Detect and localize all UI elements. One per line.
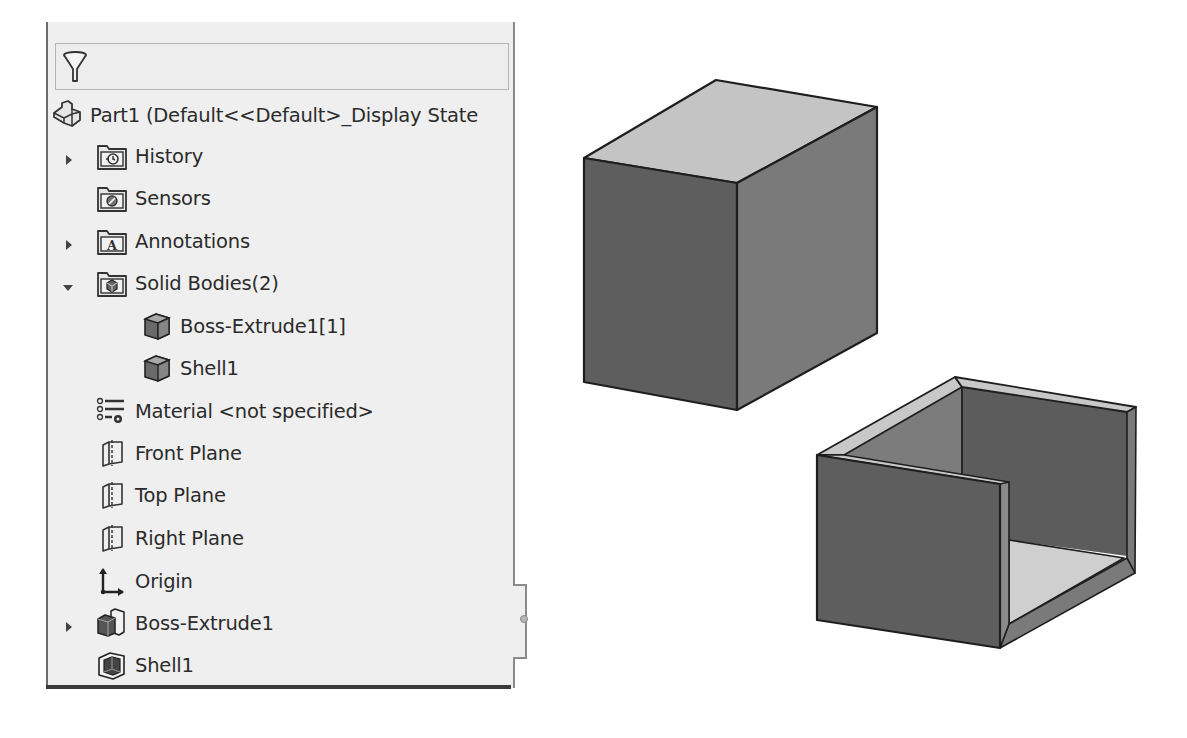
graphics-viewport[interactable]: [540, 0, 1187, 738]
tree-item-label: Boss-Extrude1[1]: [180, 315, 346, 338]
expand-arrow-history[interactable]: [64, 150, 74, 160]
part-icon: [50, 99, 84, 131]
panel-bottom-border: [46, 685, 511, 689]
tree-item-front-plane[interactable]: Front Plane: [95, 433, 242, 473]
tree-item-material[interactable]: Material <not specified>: [95, 391, 374, 431]
splitter-grip-icon[interactable]: [520, 615, 528, 623]
tree-item-boss-extrude1[interactable]: Boss-Extrude1: [95, 603, 274, 643]
filter-funnel-icon[interactable]: [62, 50, 88, 84]
tree-item-top-plane[interactable]: Top Plane: [95, 475, 226, 515]
tree-item-label: Right Plane: [135, 527, 244, 550]
expand-arrow-boss-extrude1[interactable]: [64, 617, 74, 627]
plane-icon: [95, 479, 129, 511]
tree-root-label: Part1 (Default<<Default>_Display State: [90, 104, 478, 127]
annotations-folder-icon: A: [95, 225, 129, 257]
tree-item-label: Origin: [135, 570, 193, 593]
tree-item-annotations[interactable]: A Annotations: [95, 221, 250, 261]
plane-icon: [95, 437, 129, 469]
extrude-feature-icon: [95, 607, 129, 639]
shell-feature-icon: [95, 649, 129, 681]
tree-item-label: History: [135, 145, 203, 168]
tree-item-label: Shell1: [135, 654, 194, 677]
chevron-right-icon[interactable]: [64, 155, 74, 165]
history-folder-icon: [95, 140, 129, 172]
tree-item-sensors[interactable]: Sensors: [95, 178, 211, 218]
tree-item-label: Front Plane: [135, 442, 242, 465]
svg-text:A: A: [106, 238, 118, 253]
tree-item-body-boss-extrude1[interactable]: Boss-Extrude1[1]: [140, 306, 346, 346]
tree-item-solid-bodies[interactable]: Solid Bodies(2): [95, 263, 279, 303]
collapse-arrow-solid-bodies[interactable]: [63, 278, 73, 288]
tree-item-label: Top Plane: [135, 484, 226, 507]
tree-filter-bar[interactable]: [55, 43, 509, 90]
solid-bodies-folder-icon: [95, 267, 129, 299]
tree-item-shell1[interactable]: Shell1: [95, 645, 194, 685]
solid-body-icon: [140, 352, 174, 384]
material-icon: [95, 395, 129, 427]
chevron-right-icon[interactable]: [64, 622, 74, 632]
tree-item-label: Annotations: [135, 230, 250, 253]
sensors-folder-icon: [95, 182, 129, 214]
tree-item-right-plane[interactable]: Right Plane: [95, 518, 244, 558]
solid-block-body[interactable]: [584, 80, 877, 410]
tree-root-part1[interactable]: Part1 (Default<<Default>_Display State: [50, 95, 478, 135]
shell-body[interactable]: [817, 377, 1136, 648]
tree-item-label: Boss-Extrude1: [135, 612, 274, 635]
solid-body-icon: [140, 310, 174, 342]
expand-arrow-annotations[interactable]: [64, 235, 74, 245]
plane-icon: [95, 522, 129, 554]
tree-item-origin[interactable]: Origin: [95, 561, 193, 601]
tree-item-label: Solid Bodies(2): [135, 272, 279, 295]
origin-icon: [95, 565, 129, 597]
tree-item-label: Shell1: [180, 357, 239, 380]
chevron-right-icon[interactable]: [64, 240, 74, 250]
chevron-down-icon[interactable]: [63, 283, 75, 293]
tree-item-label: Sensors: [135, 187, 211, 210]
tree-item-body-shell1[interactable]: Shell1: [140, 348, 239, 388]
tree-item-label: Material <not specified>: [135, 400, 374, 423]
tree-item-history[interactable]: History: [95, 136, 203, 176]
